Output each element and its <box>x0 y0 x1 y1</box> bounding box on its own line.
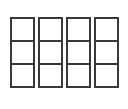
cell <box>68 40 89 63</box>
column-1 <box>10 17 35 88</box>
cell <box>40 63 61 86</box>
cell <box>40 40 61 63</box>
column-3 <box>66 17 91 88</box>
cell <box>12 19 33 40</box>
cell <box>96 63 117 86</box>
cell <box>12 40 33 63</box>
cell <box>68 63 89 86</box>
cell <box>40 19 61 40</box>
cell <box>96 19 117 40</box>
cell-grid <box>10 17 119 88</box>
cell <box>68 19 89 40</box>
column-2 <box>38 17 63 88</box>
column-4 <box>94 17 119 88</box>
cell <box>12 63 33 86</box>
cell <box>96 40 117 63</box>
